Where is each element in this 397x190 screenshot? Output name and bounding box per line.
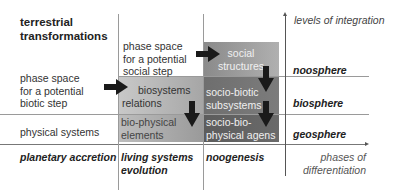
x-axis-arrow-icon <box>365 142 369 146</box>
sphere-geosphere: geosphere <box>293 128 346 141</box>
cell-line: social step <box>123 65 187 78</box>
grid-col-2 <box>203 14 204 190</box>
cell-line: for a potential <box>123 53 187 66</box>
y-axis-arrow-icon <box>283 12 287 16</box>
cell-line: biosystems <box>122 84 191 97</box>
phase-line: evolution <box>121 164 193 177</box>
phase-noogenesis: noogenesis <box>206 151 264 164</box>
cell-line: relations <box>122 97 191 110</box>
row-label-physical-systems: physical systems <box>20 126 99 139</box>
cell-line: physical agens <box>206 129 275 142</box>
cell-line: subsystems <box>206 99 261 112</box>
x-axis-label-line: phases of <box>294 151 366 164</box>
x-axis-label: phases of differentiation <box>294 151 366 176</box>
arrow-down-icon <box>258 66 274 92</box>
row-label-line: phase space <box>20 72 84 85</box>
phase-planetary-accretion: planetary accretion <box>20 151 116 164</box>
cell-biosystems-relations: biosystems relations <box>122 84 191 109</box>
phase-living-systems: living systems evolution <box>121 151 193 176</box>
cell-line: phase space <box>123 40 187 53</box>
sphere-noosphere: noosphere <box>293 64 347 77</box>
cell-social-step: phase space for a potential social step <box>123 40 187 78</box>
cell-line: socio-biotic <box>206 86 261 99</box>
row-label-line: for a potential <box>20 85 84 98</box>
grid-col-1 <box>118 14 119 190</box>
y-axis-label: levels of integration <box>294 14 384 27</box>
title-line-2: transformations <box>20 29 108 43</box>
x-axis-line <box>0 144 366 145</box>
phase-line: living systems <box>121 151 193 164</box>
x-axis-label-line: differentiation <box>294 164 366 177</box>
arrow-down-icon <box>184 101 200 127</box>
row-label-line: biotic step <box>20 97 84 110</box>
diagram-title: terrestrial transformations <box>20 15 108 43</box>
arrow-down-icon <box>258 101 274 127</box>
title-line-1: terrestrial <box>20 15 108 29</box>
sphere-biosphere: biosphere <box>293 97 343 110</box>
arrow-right-icon <box>104 79 128 95</box>
y-axis-line <box>285 16 286 176</box>
cell-line: elements <box>121 129 176 142</box>
cell-line: bio-physical <box>121 116 176 129</box>
row-label-biotic-step: phase space for a potential biotic step <box>20 72 84 110</box>
cell-bio-physical: bio-physical elements <box>121 116 176 141</box>
cell-socio-biotic: socio-biotic subsystems <box>206 86 261 111</box>
arrow-right-icon <box>196 46 220 62</box>
